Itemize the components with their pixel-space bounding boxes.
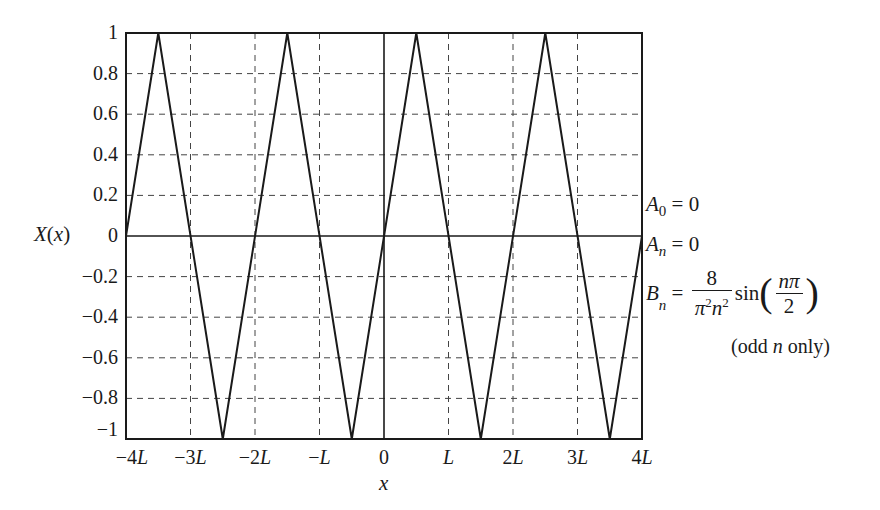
- y-tick-label: −0.8: [58, 387, 118, 407]
- an-symbol: A: [646, 232, 659, 256]
- x-tick-label: −2L: [225, 447, 285, 467]
- bn-symbol: B: [646, 281, 659, 305]
- an-value: = 0: [666, 232, 699, 256]
- bn-close-paren: ): [806, 270, 819, 315]
- bn-equals: =: [666, 281, 688, 305]
- y-tick-label: 0.6: [58, 103, 118, 123]
- x-tick-label: 3L: [548, 447, 608, 467]
- bn-fraction: 8π2n2: [692, 266, 732, 320]
- bn-denominator: π2n2: [692, 291, 732, 320]
- y-tick-label: 0.4: [58, 144, 118, 164]
- bn-open-paren: (: [759, 270, 772, 315]
- y-axis-label-arg: (x): [47, 222, 70, 246]
- y-axis-label-main: X: [34, 222, 47, 246]
- annotation-an: An = 0: [646, 232, 699, 263]
- y-tick-label: 1: [58, 22, 118, 42]
- x-tick-label: L: [419, 447, 479, 467]
- y-tick-label: −0.6: [58, 347, 118, 367]
- annotation-bn: Bn = 8π2n2sin(nπ2): [646, 266, 819, 320]
- y-tick-label: −0.2: [58, 266, 118, 286]
- a0-symbol: A: [646, 192, 659, 216]
- x-tick-label: −L: [290, 447, 350, 467]
- bn-numerator: 8: [692, 266, 732, 291]
- x-tick-label: 0: [354, 447, 414, 467]
- x-axis-label: x: [379, 473, 388, 493]
- x-tick-label: 4L: [612, 447, 672, 467]
- x-tick-label: −3L: [161, 447, 221, 467]
- x-tick-label: 2L: [483, 447, 543, 467]
- y-tick-label: −1: [58, 419, 118, 439]
- a0-value: = 0: [666, 192, 699, 216]
- chart-figure: [0, 0, 880, 510]
- bn-inner-fraction: nπ2: [776, 269, 803, 318]
- bn-sin: sin: [735, 281, 760, 305]
- y-tick-label: 0.2: [58, 184, 118, 204]
- y-tick-label: 0.8: [58, 63, 118, 83]
- annotation-odd-n-only: (odd n only): [731, 334, 830, 358]
- x-tick-label: −4L: [102, 447, 162, 467]
- y-tick-label: −0.4: [58, 306, 118, 326]
- annotation-a0: A0 = 0: [646, 192, 699, 223]
- y-axis-label: X(x): [34, 224, 70, 244]
